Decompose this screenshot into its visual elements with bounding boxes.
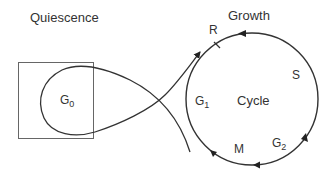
g0-label: G0 — [60, 94, 74, 106]
m-label: M — [234, 143, 244, 155]
s-label: S — [292, 69, 300, 81]
quiescence-label: Quiescence — [30, 12, 99, 24]
g2-label: G2 — [272, 137, 286, 149]
arrow-growth-icon — [238, 30, 246, 37]
cycle-label: Cycle — [237, 95, 270, 107]
arrow-bottom-icon — [253, 162, 260, 169]
growth-label: Growth — [228, 10, 270, 22]
g1-label: G1 — [195, 95, 209, 107]
restriction-label: R — [209, 24, 218, 36]
